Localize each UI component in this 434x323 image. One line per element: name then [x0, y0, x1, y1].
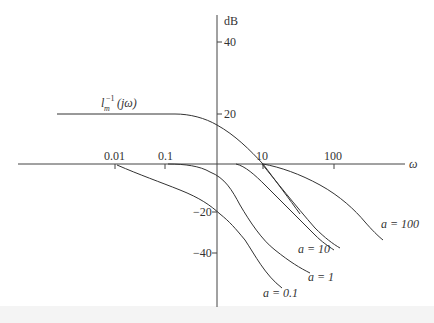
y-tick-label-minus40: −40	[193, 246, 212, 260]
y-tick-label-40: 40	[224, 35, 236, 49]
axes	[18, 15, 405, 307]
label-a-10: a = 10	[298, 242, 330, 256]
x-tick-label-100: 100	[324, 149, 342, 163]
curve-a-10	[236, 164, 334, 250]
svg-text:−1: −1	[106, 94, 115, 103]
bode-magnitude-chart: dB ω 0.01 0.1 10 100 40 20 −20 −40 l m −…	[0, 0, 434, 323]
y-tick-label-minus20: −20	[193, 205, 212, 219]
svg-text:(jω): (jω)	[117, 96, 137, 110]
y-axis-unit: dB	[224, 14, 238, 28]
label-a-1: a = 1	[308, 270, 334, 284]
curve-a-1	[168, 164, 310, 273]
x-axis-symbol: ω	[409, 157, 417, 171]
x-tick-label-0.1: 0.1	[158, 149, 173, 163]
label-inverse-lm: l m −1 (jω)	[101, 94, 137, 113]
y-tick-label-20: 20	[224, 107, 236, 121]
curve-a-10-asymptote	[262, 164, 340, 248]
curve-a-0.1	[117, 165, 282, 288]
svg-text:m: m	[104, 104, 110, 113]
curve-a-100	[263, 164, 383, 240]
label-a-0.1: a = 0.1	[263, 286, 298, 300]
label-a-100: a = 100	[381, 217, 419, 231]
x-tick-label-10: 10	[256, 149, 268, 163]
x-tick-label-0.01: 0.01	[104, 149, 125, 163]
